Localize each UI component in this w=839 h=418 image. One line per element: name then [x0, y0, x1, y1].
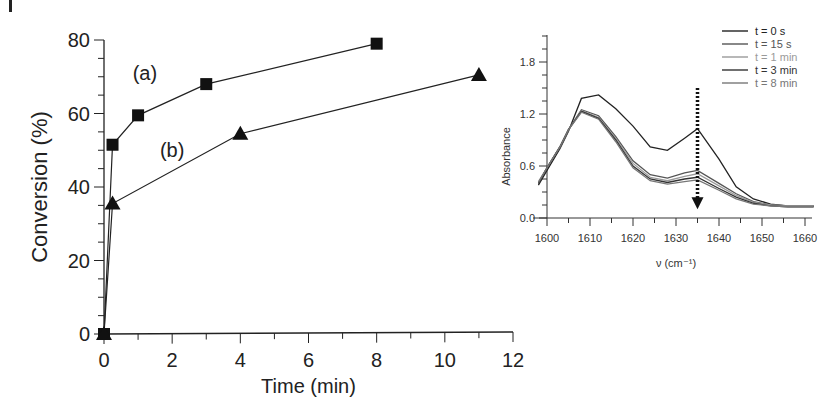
legend-label: t = 8 min — [755, 77, 798, 89]
spectrum-series-line — [538, 111, 813, 206]
spectrum-series-line — [538, 112, 813, 206]
y-tick-label: 40 — [68, 176, 90, 198]
legend-label: t = 1 min — [755, 51, 798, 63]
x-tick-label: 2 — [167, 349, 178, 371]
x-tick-label: 8 — [371, 349, 382, 371]
x-tick-label: 0 — [98, 349, 109, 371]
y-tick-label: 20 — [68, 250, 90, 272]
spectrum-y-axis-label: Absorbance — [500, 127, 512, 186]
y-tick-label: 0 — [79, 323, 90, 345]
series-annotation-a: (a) — [133, 62, 157, 84]
series-line-b — [104, 75, 479, 334]
legend-label: t = 15 s — [755, 38, 792, 50]
data-point-square — [107, 139, 119, 151]
series-annotation-b: (b) — [160, 139, 184, 161]
data-point-square — [371, 38, 383, 50]
y-tick-label: 60 — [68, 103, 90, 125]
spectrum-x-tick-label: 1660 — [793, 232, 817, 244]
spectrum-y-tick-label: 0.0 — [520, 212, 535, 224]
x-tick-label: 12 — [502, 349, 524, 371]
spectrum-x-tick-label: 1650 — [750, 232, 774, 244]
spectrum-x-tick-label: 1610 — [578, 232, 602, 244]
spectrum-y-tick-label: 1.8 — [520, 56, 535, 68]
x-tick-label: 10 — [434, 349, 456, 371]
data-point-triangle — [105, 196, 121, 210]
data-point-square — [132, 109, 144, 121]
spectrum-x-tick-label: 1600 — [535, 232, 559, 244]
spectrum-x-tick-label: 1620 — [621, 232, 645, 244]
legend-label: t = 3 min — [755, 64, 798, 76]
spectrum-series-line — [538, 111, 813, 206]
series-line-a — [104, 44, 377, 334]
x-tick-label: 6 — [303, 349, 314, 371]
data-point-triangle — [471, 67, 487, 81]
data-point-square — [200, 78, 212, 90]
x-axis-label: Time (min) — [261, 375, 356, 397]
figure: 020406080024681012Time (min)Conversion (… — [0, 0, 839, 418]
legend-label: t = 0 s — [755, 25, 786, 37]
arrow-head-icon — [692, 197, 704, 209]
y-tick-label: 80 — [68, 29, 90, 51]
spectrum-series-line — [538, 110, 813, 206]
spectrum-x-axis-label: ν (cm⁻¹) — [656, 257, 696, 269]
spectrum-y-tick-label: 1.2 — [520, 108, 535, 120]
spectrum-x-tick-label: 1640 — [707, 232, 731, 244]
spectrum-y-tick-label: 0.6 — [520, 160, 535, 172]
y-axis-label: Conversion (%) — [27, 111, 52, 263]
x-tick-label: 4 — [235, 349, 246, 371]
spectrum-x-tick-label: 1630 — [664, 232, 688, 244]
